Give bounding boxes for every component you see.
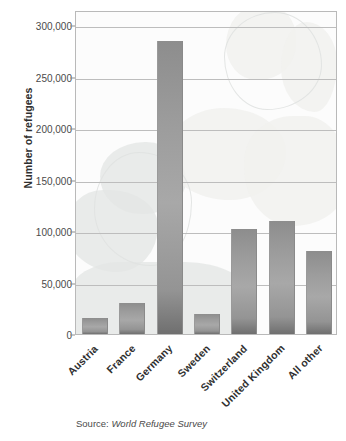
x-tick-label-austria: Austria — [65, 342, 100, 377]
plot-area — [75, 11, 337, 335]
y-tick-label-150000: 150,000 — [10, 175, 72, 186]
y-tick-label-250000: 250,000 — [10, 72, 72, 83]
bar-austria — [82, 318, 108, 334]
source-value: World Refugee Survey — [111, 418, 207, 429]
bar-all-other — [306, 251, 332, 334]
bar-switzerland — [231, 229, 257, 334]
bar-france — [119, 303, 145, 334]
x-tick-label-sweden: Sweden — [175, 342, 212, 379]
y-tick-label-50000: 50,000 — [10, 278, 72, 289]
x-tick-label-germany: Germany — [133, 342, 175, 384]
refugees-bar-chart-figure: Number of refugees 050,000100,000150,000… — [0, 0, 346, 441]
source-label: Source: — [76, 418, 109, 429]
bar-sweden — [194, 314, 220, 334]
bar-united-kingdom — [269, 221, 295, 334]
y-tick-label-200000: 200,000 — [10, 124, 72, 135]
y-tick-label-100000: 100,000 — [10, 227, 72, 238]
x-tick-label-france: France — [104, 342, 138, 376]
x-tick-label-all-other: All other — [285, 342, 325, 382]
source-note: Source: World Refugee Survey — [76, 418, 207, 429]
bar-germany — [157, 41, 183, 334]
x-axis-labels: AustriaFranceGermanySwedenSwitzerlandUni… — [0, 338, 346, 418]
bars — [76, 12, 336, 334]
y-tick-label-300000: 300,000 — [10, 21, 72, 32]
